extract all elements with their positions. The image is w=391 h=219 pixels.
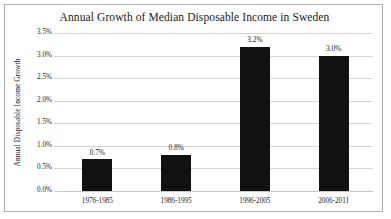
x-axis-tick-label: 2006-2011 bbox=[318, 198, 349, 205]
bar-group: 3.0%2006-2011 bbox=[294, 33, 373, 191]
y-axis-tick-label: 1.0% bbox=[37, 142, 52, 149]
y-axis-tick-label: 1.5% bbox=[37, 120, 52, 127]
y-axis-tick-label: 2.0% bbox=[37, 97, 52, 104]
bar bbox=[82, 159, 112, 191]
bar bbox=[319, 56, 349, 191]
plot-area: 0.0%0.5%1.0%1.5%2.0%2.5%3.0%3.5% 0.7%197… bbox=[58, 33, 373, 191]
chart-title: Annual Growth of Median Disposable Incom… bbox=[5, 11, 384, 23]
bar bbox=[240, 47, 270, 191]
y-axis-tick-label: 0.5% bbox=[37, 165, 52, 172]
y-axis-title-label: Annual Disposable Income Growth bbox=[14, 58, 23, 166]
bar-value-label: 3.2% bbox=[247, 36, 262, 43]
x-axis-tick-label: 1976-1985 bbox=[82, 198, 113, 205]
y-axis-tick-label: 2.5% bbox=[37, 75, 52, 82]
chart-frame: Annual Growth of Median Disposable Incom… bbox=[4, 4, 383, 212]
bar-group: 3.2%1996-2005 bbox=[216, 33, 295, 191]
x-axis-tick-label: 1986-1995 bbox=[161, 198, 192, 205]
y-axis-tick bbox=[54, 191, 58, 192]
bar-group: 0.7%1976-1985 bbox=[58, 33, 137, 191]
bar-value-label: 3.0% bbox=[326, 45, 341, 52]
gridline bbox=[58, 191, 373, 192]
bar bbox=[161, 155, 191, 191]
y-axis-title: Annual Disposable Income Growth bbox=[11, 33, 25, 191]
y-axis-tick-label: 0.0% bbox=[37, 187, 52, 194]
bar-group: 0.8%1986-1995 bbox=[137, 33, 216, 191]
bar-value-label: 0.7% bbox=[90, 149, 105, 156]
y-axis-tick-label: 3.0% bbox=[37, 52, 52, 59]
y-axis-tick-label: 3.5% bbox=[37, 29, 52, 36]
x-axis-tick-label: 1996-2005 bbox=[239, 198, 270, 205]
bar-value-label: 0.8% bbox=[168, 144, 183, 151]
